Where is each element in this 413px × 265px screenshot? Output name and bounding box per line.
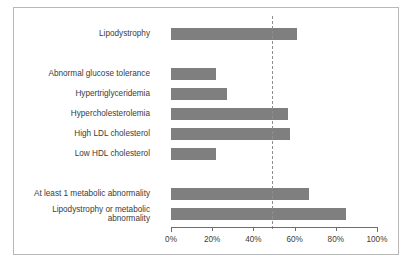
axis-tick-label: 0% <box>151 235 191 244</box>
bar-row: Lipodystrophy or metabolic abnormality <box>14 208 398 220</box>
axis-tick-label: 40% <box>233 235 273 244</box>
bar-row: Abnormal glucose tolerance <box>14 68 398 80</box>
bar-category-label: Hypertriglyceridemia <box>0 89 150 99</box>
bar-track <box>171 108 377 120</box>
axis-tick <box>295 227 296 231</box>
bar-category-label: Lipodystrophy <box>0 29 150 39</box>
bar <box>171 188 309 200</box>
bar-category-label: At least 1 metabolic abnormality <box>0 189 150 199</box>
bar-row: At least 1 metabolic abnormality <box>14 188 398 200</box>
bar-track <box>171 148 377 160</box>
bar <box>171 148 216 160</box>
axis-tick <box>253 227 254 231</box>
bar <box>171 208 346 220</box>
axis-tick <box>377 227 378 232</box>
chart-figure: LipodystrophyAbnormal glucose toleranceH… <box>13 7 399 255</box>
bar <box>171 88 227 100</box>
bar-row: Lipodystrophy <box>14 28 398 40</box>
bar-row: Hypercholesterolemia <box>14 108 398 120</box>
bar-track <box>171 28 377 40</box>
x-axis-line <box>171 227 377 228</box>
bar-track <box>171 208 377 220</box>
axis-tick-label: 100% <box>357 235 397 244</box>
plot-area: LipodystrophyAbnormal glucose toleranceH… <box>14 8 398 254</box>
bar-category-label: Abnormal glucose tolerance <box>0 69 150 79</box>
axis-tick-label: 60% <box>275 235 315 244</box>
axis-tick <box>336 227 337 231</box>
bar-row: Hypertriglyceridemia <box>14 88 398 100</box>
reference-dashed-line <box>272 16 273 229</box>
bar-track <box>171 88 377 100</box>
bar-category-label: Low HDL cholesterol <box>0 149 150 159</box>
bar-track <box>171 68 377 80</box>
axis-tick-label: 20% <box>192 235 232 244</box>
bar-track <box>171 188 377 200</box>
bar <box>171 28 297 40</box>
bar-category-label: High LDL cholesterol <box>0 129 150 139</box>
axis-tick <box>171 227 172 232</box>
axis-tick <box>212 227 213 231</box>
axis-tick-label: 80% <box>316 235 356 244</box>
bar-row: Low HDL cholesterol <box>14 148 398 160</box>
bar-category-label: Hypercholesterolemia <box>0 109 150 119</box>
bar <box>171 68 216 80</box>
bar-row: High LDL cholesterol <box>14 128 398 140</box>
bar-track <box>171 128 377 140</box>
bar <box>171 108 288 120</box>
bar-category-label: Lipodystrophy or metabolic abnormality <box>0 205 150 224</box>
